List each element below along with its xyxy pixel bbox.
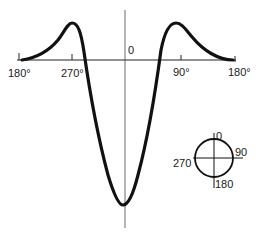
- orientation-key: 0 90 180 270: [173, 130, 247, 190]
- x-label-180-left: 180°: [8, 67, 31, 79]
- orientation-label-top: 0: [216, 130, 222, 142]
- diagram-canvas: 180° 270° 0 90° 180° 0 90 180 270: [0, 0, 262, 238]
- x-label-90: 90°: [173, 66, 190, 78]
- orientation-label-left: 270: [173, 157, 191, 169]
- x-label-0: 0: [128, 44, 134, 56]
- orientation-label-right: 90: [235, 146, 247, 158]
- x-label-270: 270°: [61, 67, 84, 79]
- x-label-180-right: 180°: [228, 66, 251, 78]
- orientation-label-bottom: 180: [215, 178, 233, 190]
